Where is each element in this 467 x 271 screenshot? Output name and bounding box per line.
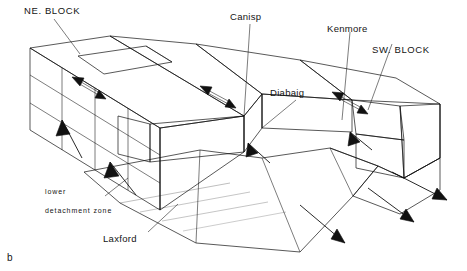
strike-slip-pair-3	[332, 92, 368, 114]
extension-arrow-1	[392, 172, 447, 200]
figure-id-label: b	[7, 252, 13, 263]
block-diagram-svg	[0, 0, 467, 271]
strike-slip-pair-2	[200, 86, 236, 108]
leader-lines	[54, 19, 392, 232]
label-detachment-line2: detachment zone	[45, 207, 112, 214]
leader-ne-block	[54, 19, 80, 54]
central-block	[110, 36, 262, 162]
label-canisp: Canisp	[230, 11, 261, 22]
label-detachment-line1: lower	[45, 188, 66, 195]
ne-block	[30, 36, 244, 210]
transport-arrows	[104, 132, 372, 195]
leader-canisp	[244, 24, 250, 116]
extension-arrows	[300, 172, 447, 243]
leader-detachment	[105, 178, 128, 196]
leader-kenmore	[342, 32, 350, 120]
extension-arrow-3	[300, 205, 345, 243]
label-diabaig: Diabaig	[270, 87, 304, 98]
leader-diabaig	[262, 100, 296, 128]
transport-arrow-ne	[56, 120, 82, 158]
block-diagram-figure: NE. BLOCK Canisp Kenmore SW. BLOCK Diaba…	[0, 0, 467, 271]
transport-arrow-center	[246, 143, 270, 163]
strike-slip-pair-1	[72, 77, 106, 99]
sw-block	[300, 60, 440, 214]
strike-slip-arrows	[72, 77, 368, 114]
label-ne-block: NE. BLOCK	[24, 5, 80, 16]
label-sw-block: SW. BLOCK	[372, 44, 430, 55]
extension-arrow-2	[368, 188, 414, 222]
label-laxford: Laxford	[103, 233, 137, 244]
label-kenmore: Kenmore	[327, 23, 368, 34]
